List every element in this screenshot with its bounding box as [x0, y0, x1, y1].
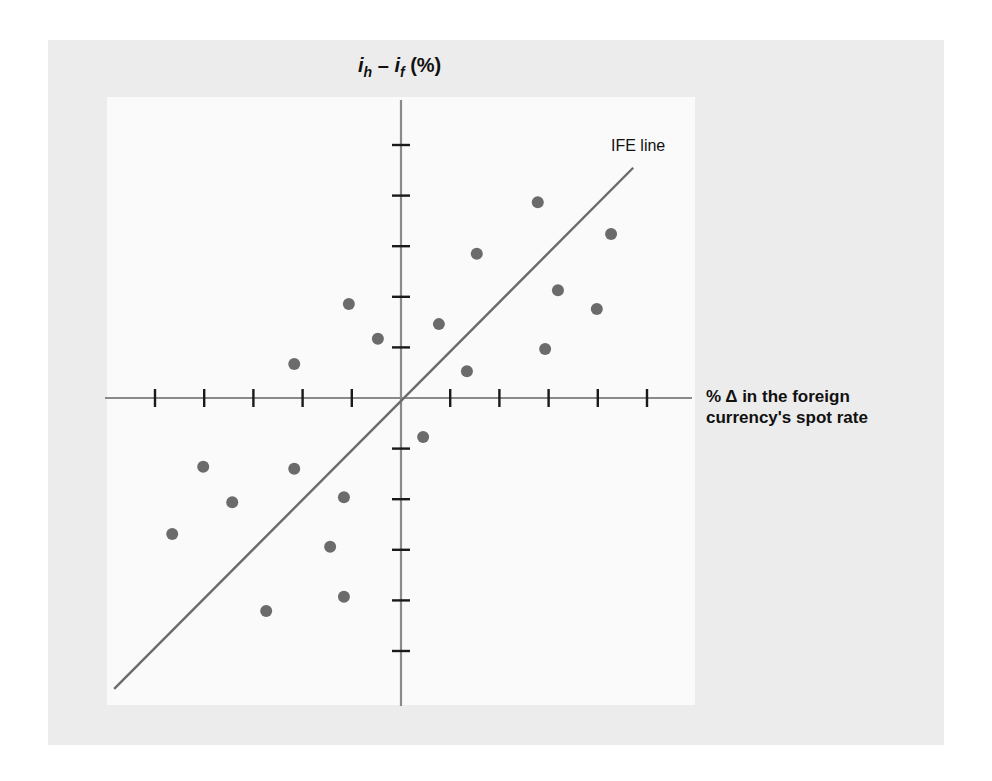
x-axis-label-line-2: currency's spot rate	[706, 407, 868, 428]
data-point	[552, 284, 564, 296]
ife-line-label: IFE line	[611, 137, 665, 155]
data-point	[433, 318, 445, 330]
data-point	[338, 591, 350, 603]
ife-line-path	[114, 168, 633, 689]
data-point	[226, 496, 238, 508]
data-point	[343, 298, 355, 310]
data-point	[260, 605, 272, 617]
data-point	[324, 541, 336, 553]
data-point	[288, 463, 300, 475]
data-point	[471, 248, 483, 260]
x-axis-label: % Δ in the foreign currency's spot rate	[706, 386, 868, 428]
data-point	[372, 333, 384, 345]
data-point	[539, 343, 551, 355]
data-point	[197, 461, 209, 473]
data-point	[338, 491, 350, 503]
data-point	[605, 228, 617, 240]
y-axis-label: ih – if (%)	[358, 54, 441, 80]
data-point	[166, 528, 178, 540]
data-point	[532, 196, 544, 208]
ife-line	[114, 168, 633, 689]
data-point	[288, 358, 300, 370]
data-point	[461, 365, 473, 377]
x-axis-label-line-1: % Δ in the foreign	[706, 386, 868, 407]
data-point	[417, 431, 429, 443]
data-point	[591, 303, 603, 315]
